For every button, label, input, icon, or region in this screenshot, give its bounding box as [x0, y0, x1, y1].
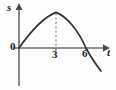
plot-canvas [0, 0, 116, 90]
x-tick-label-6: 6 [82, 48, 88, 59]
x-axis-label: t [107, 47, 110, 58]
y-axis-label: s [7, 2, 11, 13]
y-axis-arrowhead [16, 3, 23, 10]
origin-label: 0 [10, 41, 16, 52]
curve-s-of-t [19, 12, 101, 71]
x-tick-label-3: 3 [52, 49, 58, 60]
chart-figure: s t 0 3 6 [0, 0, 116, 90]
